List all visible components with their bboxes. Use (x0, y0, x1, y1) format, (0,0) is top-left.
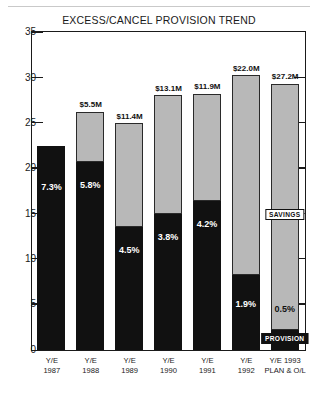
x-axis-category-label: Y/E1987 (32, 356, 72, 375)
bar-group[interactable]: 4.2% (193, 33, 221, 350)
bar-segment-provision[interactable] (232, 275, 260, 350)
y-tick-label: 15 (10, 208, 36, 219)
y-tick-label: 25 (10, 117, 36, 128)
bar-segment-provision[interactable] (76, 162, 104, 351)
y-tick-label: 0 (10, 344, 36, 355)
y-tick-label: 20 (10, 162, 36, 173)
x-label-line1: Y/E (201, 356, 213, 365)
chart-page: { "page": { "rule_present": true }, "cha… (0, 0, 318, 399)
x-label-line2: 1987 (32, 366, 72, 376)
x-label-line2: 1989 (110, 366, 150, 376)
x-axis-category-label: Y/E 1993PLAN & O/L (254, 356, 316, 375)
bar-percent-label: 3.8% (154, 232, 182, 242)
bar-segment-savings[interactable] (154, 95, 182, 214)
bar-percent-label: 0.5% (271, 304, 299, 314)
bar-percent-label: 4.2% (193, 219, 221, 229)
bar-percent-label: 4.5% (115, 245, 143, 255)
x-axis-category-label: Y/E1990 (149, 356, 189, 375)
bar-group[interactable]: 1.9% (232, 33, 260, 350)
x-label-line2: 1990 (149, 366, 189, 376)
y-tick-label: 5 (10, 298, 36, 309)
x-label-line1: Y/E (46, 356, 58, 365)
bar-value-label: $27.2M (257, 72, 313, 81)
bar-group[interactable]: 5.8% (76, 33, 104, 350)
x-axis-category-label: Y/E1991 (187, 356, 227, 375)
bar-segment-savings[interactable] (193, 94, 221, 202)
bar-segment-provision[interactable] (37, 146, 65, 350)
bar-percent-label: 5.8% (76, 180, 104, 190)
page-rule (8, 6, 310, 7)
y-tick-label: 10 (10, 253, 36, 264)
bar-percent-label: 1.9% (232, 299, 260, 309)
x-label-line1: Y/E (240, 356, 252, 365)
x-axis-category-label: Y/E1988 (71, 356, 111, 375)
x-label-line1: Y/E (123, 356, 135, 365)
y-tick-label: 35 (10, 26, 36, 37)
x-label-line1: Y/E (162, 356, 174, 365)
bar-percent-label: 7.3% (37, 182, 65, 192)
y-tick-label: 30 (10, 72, 36, 83)
x-label-line2: 1991 (187, 366, 227, 376)
bar-group[interactable]: 3.8% (154, 33, 182, 350)
bar-value-label: $5.5M (63, 100, 119, 109)
bar-group[interactable]: 4.5% (115, 33, 143, 350)
bar-segment-savings[interactable] (76, 112, 104, 162)
savings-legend-label: SAVINGS (265, 209, 304, 220)
bar-segment-savings[interactable] (271, 84, 299, 331)
x-label-line2: 1988 (71, 366, 111, 376)
x-axis-category-label: Y/E1989 (110, 356, 150, 375)
x-label-line2: PLAN & O/L (254, 366, 316, 376)
bar-group[interactable]: 7.3% (37, 33, 65, 350)
x-label-line1: Y/E 1993 (270, 356, 301, 365)
bar-value-label: $11.4M (102, 112, 158, 121)
chart-title: EXCESS/CANCEL PROVISION TREND (0, 14, 318, 26)
bar-value-label: $11.9M (179, 82, 235, 91)
x-label-line1: Y/E (85, 356, 97, 365)
bar-segment-savings[interactable] (115, 123, 143, 226)
provision-legend-label: PROVISION (261, 333, 308, 344)
bar-segment-savings[interactable] (232, 75, 260, 274)
